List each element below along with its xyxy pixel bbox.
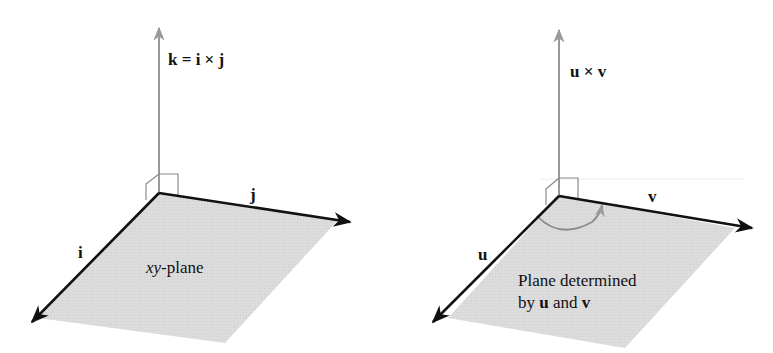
u-label: u	[478, 245, 487, 264]
i-label: i	[78, 243, 83, 262]
xy-plane-label: xy-plane	[145, 258, 204, 277]
j-label: j	[249, 185, 256, 204]
v-label: v	[648, 187, 657, 206]
right-figure: u × v v u Plane determined by u and v	[433, 30, 752, 348]
plane-label-line1: Plane determined	[518, 271, 637, 290]
cross-product-diagram: k = i × j j i xy-plane u × v v u Plane d…	[0, 0, 773, 353]
uxv-label: u × v	[570, 62, 607, 81]
k-label: k = i × j	[168, 50, 224, 69]
left-figure: k = i × j j i xy-plane	[32, 28, 350, 343]
plane-label-line2: by u and v	[518, 293, 591, 312]
